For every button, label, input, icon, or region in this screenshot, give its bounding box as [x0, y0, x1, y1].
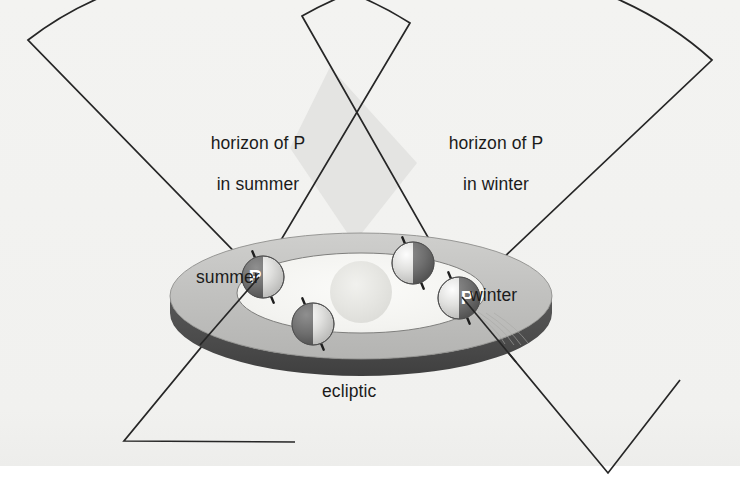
sun [330, 261, 392, 323]
label-horizon-of-p-in-winter: horizon of P in winter [396, 112, 576, 215]
label-horizon-winter-line2: in winter [463, 174, 529, 194]
label-horizon-summer-line2: in summer [217, 174, 300, 194]
label-horizon-winter-line1: horizon of P [449, 133, 544, 153]
label-summer: summer [196, 267, 260, 288]
label-winter: winter [470, 285, 517, 306]
label-horizon-summer-line1: horizon of P [211, 133, 306, 153]
label-ecliptic: ecliptic [322, 381, 376, 402]
ecliptic-horizon-diagram: P P [0, 0, 740, 502]
figure-canvas: P P horizon of P in summer horizon of P … [0, 0, 740, 502]
label-horizon-of-p-in-summer: horizon of P in summer [158, 112, 338, 215]
